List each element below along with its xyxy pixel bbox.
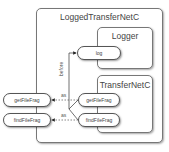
log-port[interactable]: log (77, 46, 121, 60)
outer-getfilefrag-port[interactable]: getFileFrag (3, 93, 51, 107)
edges-layer (0, 0, 169, 152)
as-label: as (61, 112, 66, 118)
outer-findfilefrag-port[interactable]: findFileFrag (3, 113, 51, 127)
before-label: before (58, 62, 64, 76)
inner-getfilefrag-port[interactable]: getFileFrag (78, 93, 120, 107)
inner-findfilefrag-port[interactable]: findFileFrag (78, 113, 120, 127)
as-label: as (61, 92, 66, 98)
